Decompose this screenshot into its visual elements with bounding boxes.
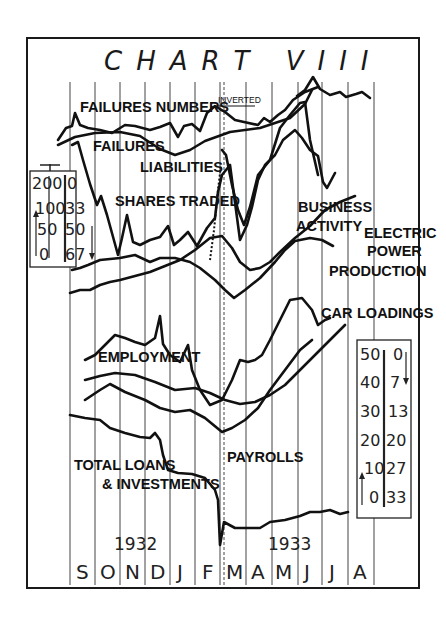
svg-text:0: 0 bbox=[39, 245, 49, 264]
svg-text:D: D bbox=[150, 560, 165, 584]
left-scale: 200 100 50 0 0 33 50 67 bbox=[30, 164, 95, 267]
svg-text:33: 33 bbox=[65, 199, 85, 218]
label-shares-traded: SHARES TRADED bbox=[115, 193, 240, 209]
label-total-loans: TOTAL LOANS bbox=[74, 457, 176, 473]
svg-text:30: 30 bbox=[360, 402, 380, 421]
svg-text:27: 27 bbox=[386, 459, 406, 478]
svg-text:A: A bbox=[353, 560, 367, 584]
label-power: POWER bbox=[367, 243, 422, 259]
svg-text:200: 200 bbox=[32, 174, 63, 193]
svg-text:67: 67 bbox=[65, 245, 85, 264]
label-activity: ACTIVITY bbox=[296, 218, 362, 234]
label-employment: EMPLOYMENT bbox=[98, 349, 200, 365]
series-top-peak bbox=[297, 77, 370, 98]
svg-text:13: 13 bbox=[388, 402, 408, 421]
svg-text:0: 0 bbox=[67, 174, 77, 193]
right-scale: 50 40 30 20 10 0 0 7 13 20 27 33 bbox=[357, 340, 411, 518]
svg-text:J: J bbox=[175, 560, 183, 584]
svg-text:10: 10 bbox=[364, 459, 384, 478]
svg-text:J: J bbox=[327, 560, 335, 584]
svg-text:S: S bbox=[76, 560, 89, 584]
series-electric-power bbox=[72, 238, 333, 298]
label-production: PRODUCTION bbox=[329, 263, 426, 279]
label-electric: ELECTRIC bbox=[364, 225, 437, 241]
svg-text:50: 50 bbox=[37, 220, 57, 239]
label-failures: FAILURES bbox=[93, 138, 165, 154]
label-investments: & INVESTMENTS bbox=[102, 476, 220, 492]
svg-text:A: A bbox=[251, 560, 265, 584]
label-liabilities: LIABILITIES bbox=[140, 159, 223, 175]
year-1932: 1932 bbox=[114, 534, 157, 554]
svg-text:40: 40 bbox=[360, 373, 380, 392]
label-payrolls: PAYROLLS bbox=[227, 449, 304, 465]
year-1933: 1933 bbox=[268, 534, 311, 554]
svg-text:0: 0 bbox=[369, 488, 379, 507]
svg-text:100: 100 bbox=[35, 199, 66, 218]
label-inverted: INVERTED bbox=[218, 95, 261, 105]
svg-text:M: M bbox=[226, 560, 243, 584]
svg-text:0: 0 bbox=[393, 345, 403, 364]
svg-text:F: F bbox=[202, 560, 214, 584]
svg-text:20: 20 bbox=[386, 431, 406, 450]
svg-text:N: N bbox=[125, 560, 140, 584]
label-failures-numbers: FAILURES NUMBERS bbox=[80, 99, 229, 115]
svg-text:50: 50 bbox=[65, 220, 85, 239]
svg-text:20: 20 bbox=[360, 431, 380, 450]
label-car: CAR bbox=[321, 305, 353, 321]
svg-text:33: 33 bbox=[386, 488, 406, 507]
svg-text:J: J bbox=[302, 560, 310, 584]
svg-text:50: 50 bbox=[360, 345, 380, 364]
svg-text:7: 7 bbox=[390, 373, 400, 392]
chart-canvas: CHART VIII FAILURES NUMBERS INVERTED FAI… bbox=[0, 0, 446, 626]
svg-text:M: M bbox=[275, 560, 292, 584]
label-business: BUSINESS bbox=[298, 199, 372, 215]
chart-title: CHART VIII bbox=[104, 46, 383, 76]
svg-text:O: O bbox=[100, 560, 116, 584]
label-loadings: LOADINGS bbox=[357, 305, 434, 321]
